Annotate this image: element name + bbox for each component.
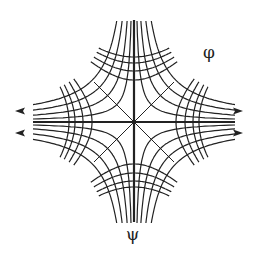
- arrow-left-icon: [15, 130, 25, 137]
- psi-label: ψ: [126, 226, 139, 243]
- arrow-left-icon: [15, 108, 25, 115]
- arrow-right-icon: [233, 130, 243, 137]
- stagnation-point: [132, 120, 136, 124]
- phi-label: φ: [203, 44, 215, 61]
- arrow-right-icon: [233, 108, 243, 115]
- psi-streamline: [137, 21, 235, 119]
- psi-streamline: [137, 125, 235, 223]
- psi-streamline: [33, 125, 131, 223]
- psi-streamline: [33, 21, 131, 119]
- flow-net-diagram: [0, 0, 258, 254]
